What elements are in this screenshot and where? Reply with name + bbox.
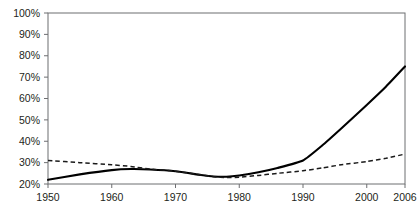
y-tick-label: 20% xyxy=(19,178,40,190)
y-tick-label: 50% xyxy=(19,114,40,126)
x-tick-label: 2000 xyxy=(355,191,379,203)
y-axis-ticks: 20%30%40%50%60%70%80%90%100% xyxy=(13,7,48,190)
plot-frame xyxy=(48,13,405,184)
x-tick-label: 1980 xyxy=(228,191,252,203)
y-tick-label: 80% xyxy=(19,49,40,61)
chart-canvas: 20%30%40%50%60%70%80%90%100% 19501960197… xyxy=(0,0,420,218)
y-tick-label: 70% xyxy=(19,71,40,83)
series-line-dashed-series xyxy=(48,154,405,178)
line-chart: 20%30%40%50%60%70%80%90%100% 19501960197… xyxy=(0,0,420,218)
y-tick-label: 40% xyxy=(19,135,40,147)
y-tick-label: 30% xyxy=(19,156,40,168)
y-tick-label: 60% xyxy=(19,92,40,104)
plot-frame-group xyxy=(48,13,405,184)
x-tick-label: 1950 xyxy=(36,191,60,203)
y-tick-label: 100% xyxy=(13,7,40,19)
x-axis-ticks: 1950196019701980199020002006 xyxy=(36,184,417,203)
x-tick-label: 1970 xyxy=(164,191,188,203)
x-tick-label: 1960 xyxy=(100,191,124,203)
x-tick-label: 1990 xyxy=(291,191,315,203)
x-tick-label: 2006 xyxy=(393,191,417,203)
y-tick-label: 90% xyxy=(19,28,40,40)
series-line-solid-series xyxy=(48,66,405,179)
data-series-group xyxy=(48,66,405,179)
